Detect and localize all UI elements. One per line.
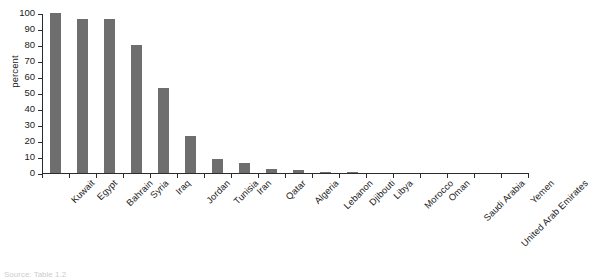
x-tick-label: Saudi Arabia — [481, 178, 526, 223]
x-tick — [474, 173, 475, 178]
x-tick — [123, 173, 124, 178]
x-tick — [231, 173, 232, 178]
x-tick-label: Jordan — [204, 178, 232, 206]
x-tick — [177, 173, 178, 178]
x-tick-label: United Arab Emirates — [519, 178, 589, 249]
bar — [239, 163, 250, 173]
y-tick-label: 60 — [5, 71, 35, 82]
y-tick: 30 — [38, 126, 43, 127]
y-tick: 40 — [38, 110, 43, 111]
x-tick-label: Qatar — [283, 178, 307, 202]
x-tick-label: Lebanon — [341, 178, 374, 211]
bar — [77, 19, 88, 173]
y-tick-label: 10 — [5, 151, 35, 162]
x-tick-label: Tunisia — [231, 178, 260, 207]
x-tick — [42, 173, 43, 178]
x-tick — [96, 173, 97, 178]
x-tick-label: Iraq — [173, 178, 192, 197]
x-tick — [285, 173, 286, 178]
x-tick-label: Egypt — [95, 178, 119, 202]
bar — [131, 45, 142, 173]
y-tick-label: 100 — [5, 7, 35, 18]
x-tick — [204, 173, 205, 178]
x-tick — [150, 173, 151, 178]
x-tick-label: Libya — [391, 178, 414, 201]
x-tick — [69, 173, 70, 178]
x-tick — [339, 173, 340, 178]
x-tick — [501, 173, 502, 178]
x-tick — [528, 173, 529, 178]
y-tick-label: 90 — [5, 23, 35, 34]
y-tick: 20 — [38, 142, 43, 143]
bar — [158, 88, 169, 173]
plot-area: 0102030405060708090100 — [42, 14, 528, 174]
bar — [50, 13, 61, 173]
bar — [104, 19, 115, 173]
x-tick — [393, 173, 394, 178]
bar — [212, 159, 223, 173]
x-tick-label: Yemen — [528, 178, 556, 206]
x-tick-label: Algeria — [312, 178, 340, 206]
y-tick-label: 70 — [5, 55, 35, 66]
y-tick-label: 50 — [5, 87, 35, 98]
y-tick: 90 — [38, 30, 43, 31]
y-tick: 60 — [38, 78, 43, 79]
y-tick: 50 — [38, 94, 43, 95]
y-tick: 10 — [38, 158, 43, 159]
bar — [320, 172, 331, 173]
bar — [185, 136, 196, 173]
bar — [293, 170, 304, 173]
figure-caption: Source: Table 1.2 — [4, 270, 66, 279]
y-tick-label: 40 — [5, 103, 35, 114]
x-tick — [312, 173, 313, 178]
y-tick: 70 — [38, 62, 43, 63]
x-tick-label: Kuwait — [69, 178, 96, 205]
bar — [347, 172, 358, 173]
y-tick: 100 — [38, 14, 43, 15]
y-tick: 80 — [38, 46, 43, 47]
y-tick-label: 0 — [5, 167, 35, 178]
x-tick — [258, 173, 259, 178]
y-tick-label: 20 — [5, 135, 35, 146]
y-tick-label: 30 — [5, 119, 35, 130]
x-tick — [420, 173, 421, 178]
bar — [266, 169, 277, 173]
y-tick-label: 80 — [5, 39, 35, 50]
